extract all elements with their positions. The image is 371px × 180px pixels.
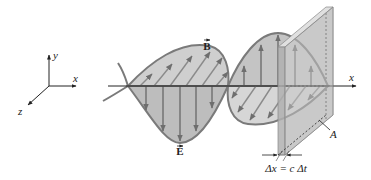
e-field-lobe-1 — [128, 86, 228, 143]
x-axis-label: x — [72, 72, 78, 84]
wave-tail-e — [118, 63, 128, 86]
thickness-label: Δx = c Δt — [264, 162, 307, 174]
b-field-label: B — [203, 40, 211, 52]
area-label: A — [329, 128, 337, 140]
slab-front-face — [278, 47, 285, 155]
b-field-lobe-1 — [128, 45, 228, 86]
wave-tail-b — [103, 86, 128, 101]
propagation-axis-label: x — [348, 71, 354, 83]
z-axis-label: z — [17, 105, 23, 117]
e-field-label: E — [176, 145, 183, 157]
y-axis-label: y — [52, 49, 58, 61]
axes-triad: y x z — [17, 49, 78, 117]
z-axis-arrow — [28, 86, 49, 105]
slab-side-face — [285, 7, 333, 155]
slab — [278, 7, 333, 155]
em-wave-diagram: y x z — [0, 0, 371, 180]
